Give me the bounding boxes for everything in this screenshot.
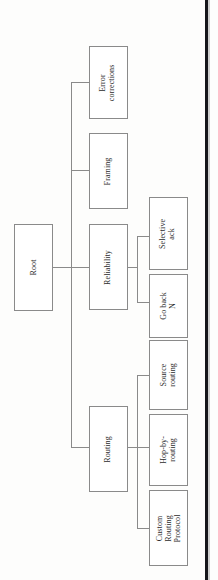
node-error-corrections-label: Error corrections <box>100 64 118 101</box>
node-framing-label: Framing <box>104 157 113 185</box>
diagram-canvas: Root Error corrections Framing Reliabili… <box>0 0 218 580</box>
connector-routing-to-source <box>137 375 149 376</box>
connector-root-to-routing <box>71 447 89 448</box>
node-custom-routing-protocol[interactable]: Custom Routing Protocol <box>149 490 188 566</box>
node-reliability[interactable]: Reliability <box>89 224 128 310</box>
node-hop-by-routing[interactable]: Hop-by- routing <box>149 414 188 486</box>
node-routing-label: Routing <box>104 436 113 462</box>
connector-reliability-trunk <box>137 236 138 303</box>
node-hop-by-routing-label: Hop-by- routing <box>160 436 178 464</box>
node-source-routing[interactable]: Source routing <box>149 340 188 410</box>
connector-routing-trunk <box>137 375 138 528</box>
node-root-label: Root <box>29 260 38 276</box>
connector-root-to-reliability <box>71 267 89 268</box>
node-go-back-n-label: Go back N <box>160 292 178 320</box>
node-selective-ack-label: Selective ack <box>160 218 178 248</box>
node-custom-routing-protocol-label: Custom Routing Protocol <box>155 514 182 542</box>
connector-reliability-to-gobackn <box>137 302 149 303</box>
node-routing[interactable]: Routing <box>89 406 128 492</box>
node-selective-ack[interactable]: Selective ack <box>149 197 188 270</box>
node-go-back-n[interactable]: Go back N <box>149 274 188 338</box>
node-root[interactable]: Root <box>14 224 53 311</box>
connector-root-to-error <box>71 82 89 83</box>
connector-level1-trunk <box>71 82 72 447</box>
node-error-corrections[interactable]: Error corrections <box>89 46 128 119</box>
node-reliability-label: Reliability <box>104 250 113 285</box>
connector-reliability-to-selack <box>137 236 149 237</box>
connector-root-to-framing <box>71 170 89 171</box>
node-source-routing-label: Source routing <box>160 363 178 387</box>
connector-routing-to-customrp <box>137 528 149 529</box>
page-edge-shadow <box>208 0 210 580</box>
connector-routing-to-hopbyhop <box>137 447 149 448</box>
connector-root-stem <box>53 267 72 268</box>
node-framing[interactable]: Framing <box>89 133 128 209</box>
